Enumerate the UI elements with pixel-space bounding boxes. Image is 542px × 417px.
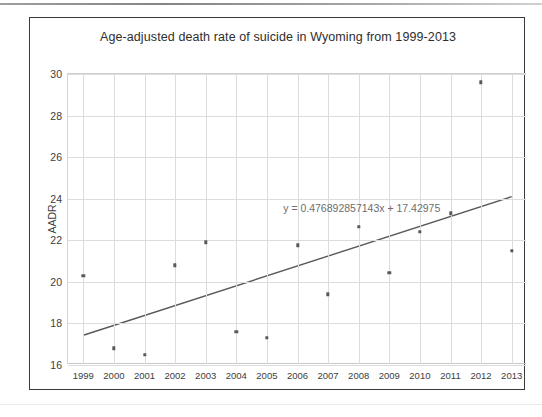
scan-artifact-bottom [0,404,542,405]
x-tick-label: 2009 [379,370,400,381]
y-tick-label: 20 [50,276,62,288]
x-tick-label: 2001 [134,370,155,381]
y-tick-label: 24 [50,193,62,205]
x-tick-label: 2012 [471,370,492,381]
gridline-vertical [328,74,329,364]
gridline-vertical [451,74,452,364]
plot-wrapper: AADR 30282624222018161999200020012002200… [67,73,526,364]
x-tick-label: 2000 [103,370,124,381]
y-tick-label: 18 [50,317,62,329]
x-tick-label: 2004 [226,370,247,381]
gridline-vertical [298,74,299,364]
y-tick-label: 22 [50,234,62,246]
x-tick-label: 2007 [318,370,339,381]
gridline-vertical [512,74,513,364]
x-tick-label: 2008 [348,370,369,381]
chart-title: Age-adjusted death rate of suicide in Wy… [30,30,526,44]
gridline-vertical [267,74,268,364]
chart-frame: Age-adjusted death rate of suicide in Wy… [29,17,525,390]
y-tick-label: 26 [50,151,62,163]
x-tick-label: 1999 [73,370,94,381]
gridline-vertical [481,74,482,364]
y-tick-label: 16 [50,359,62,371]
x-tick-label: 2006 [287,370,308,381]
gridline-vertical [359,74,360,364]
gridline-vertical [83,74,84,364]
x-tick-label: 2011 [440,370,460,381]
x-tick-label: 2002 [165,370,186,381]
trendline-equation-label: y = 0.476892857143x + 17.42975 [283,202,440,214]
scan-artifact-top [0,3,542,5]
y-axis-title: AADR [46,204,58,233]
y-tick-label: 30 [50,68,62,80]
gridline-vertical [236,74,237,364]
x-tick-label: 2013 [501,370,522,381]
gridline-vertical [389,74,390,364]
x-tick-label: 2005 [256,370,277,381]
gridline-horizontal [68,365,526,366]
gridline-vertical [114,74,115,364]
gridline-vertical [175,74,176,364]
x-tick-label: 2003 [195,370,216,381]
y-tick-label: 28 [50,110,62,122]
gridline-vertical [145,74,146,364]
plot-area: 3028262422201816199920002001200220032004… [67,73,526,364]
gridline-vertical [420,74,421,364]
gridline-vertical [206,74,207,364]
x-tick-label: 2010 [409,370,430,381]
